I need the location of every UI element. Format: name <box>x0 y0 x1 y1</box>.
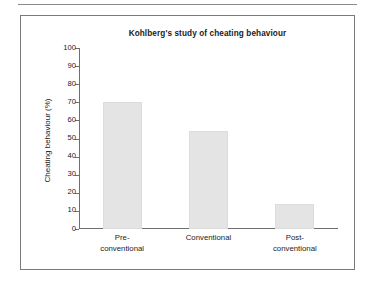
y-axis-title: Cheating behaviour (%) <box>43 71 52 211</box>
figure-box: Kohlberg's study of cheating behaviour C… <box>20 15 355 270</box>
chart-title: Kohlberg's study of cheating behaviour <box>21 29 354 38</box>
x-axis-label: Pre-conventional <box>79 233 165 254</box>
x-axis-label: Conventional <box>165 233 251 244</box>
y-tick-label: 80 <box>68 79 76 88</box>
y-axis-line <box>79 48 80 229</box>
y-tick-label: 60 <box>68 115 76 124</box>
y-tick-label: 70 <box>68 97 76 106</box>
page-top-rule <box>18 4 357 5</box>
bar <box>275 204 314 229</box>
y-tick-label: 40 <box>68 151 76 160</box>
x-axis-label-line: Conventional <box>165 233 251 244</box>
y-tick-label: 50 <box>68 133 76 142</box>
y-tick-label: 20 <box>68 187 76 196</box>
x-axis-label-line: conventional <box>79 244 165 255</box>
bar <box>103 102 142 229</box>
x-axis-label-line: Pre- <box>79 233 165 244</box>
x-axis-label-line: Post- <box>252 233 338 244</box>
bar <box>189 131 228 229</box>
y-tick-label: 10 <box>68 205 76 214</box>
y-tick-label: 100 <box>63 43 76 52</box>
plot-area: 0102030405060708090100 Pre-conventionalC… <box>79 48 338 229</box>
y-tick-label: 30 <box>68 169 76 178</box>
y-tick-label: 0 <box>72 224 76 233</box>
x-axis-label-line: conventional <box>252 244 338 255</box>
y-tick-label: 90 <box>68 61 76 70</box>
x-axis-label: Post-conventional <box>252 233 338 254</box>
